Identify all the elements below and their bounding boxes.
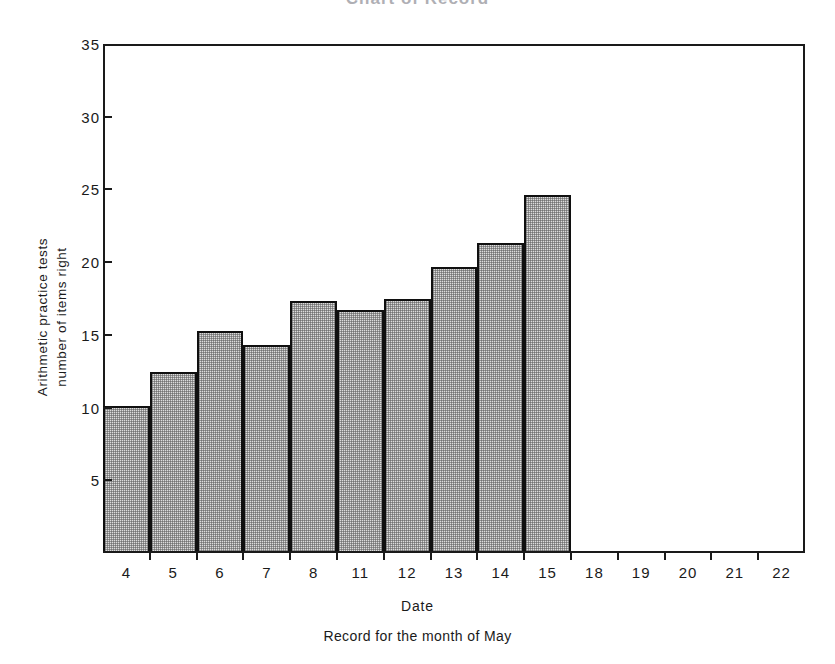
x-tick-mark xyxy=(196,553,198,560)
x-tick-mark xyxy=(757,553,759,560)
x-tick-mark xyxy=(476,553,478,560)
x-axis-title: Date xyxy=(0,598,835,614)
x-tick-label: 7 xyxy=(262,565,271,580)
x-tick-label: 20 xyxy=(679,565,698,580)
x-tick-label: 13 xyxy=(445,565,464,580)
y-tick-mark xyxy=(103,334,112,336)
x-tick-label: 12 xyxy=(398,565,417,580)
x-tick-label: 8 xyxy=(309,565,318,580)
x-tick-mark xyxy=(149,553,151,560)
x-tick-label: 4 xyxy=(122,565,131,580)
chart-caption: Record for the month of May xyxy=(0,628,835,644)
y-tick-mark xyxy=(103,479,112,481)
x-tick-mark xyxy=(383,553,385,560)
x-tick-mark xyxy=(523,553,525,560)
x-tick-label: 15 xyxy=(538,565,557,580)
x-tick-mark xyxy=(710,553,712,560)
x-tick-label: 11 xyxy=(352,565,370,580)
x-tick-mark xyxy=(242,553,244,560)
y-tick-mark xyxy=(103,116,112,118)
x-tick-mark xyxy=(289,553,291,560)
x-tick-mark xyxy=(430,553,432,560)
y-tick-mark xyxy=(103,407,112,409)
x-tick-mark xyxy=(617,553,619,560)
x-tick-label: 19 xyxy=(632,565,651,580)
x-tick-label: 14 xyxy=(491,565,510,580)
y-tick-mark xyxy=(103,261,112,263)
y-tick-mark xyxy=(103,188,112,190)
x-tick-mark xyxy=(336,553,338,560)
x-tick-mark xyxy=(664,553,666,560)
x-tick-label: 5 xyxy=(169,565,178,580)
x-tick-label: 18 xyxy=(585,565,604,580)
x-tick-mark xyxy=(570,553,572,560)
x-tick-label: 21 xyxy=(725,565,744,580)
x-axis-tick-labels: 4567811121314151819202122 xyxy=(0,0,835,664)
x-tick-label: 22 xyxy=(772,565,791,580)
x-tick-label: 6 xyxy=(215,565,224,580)
